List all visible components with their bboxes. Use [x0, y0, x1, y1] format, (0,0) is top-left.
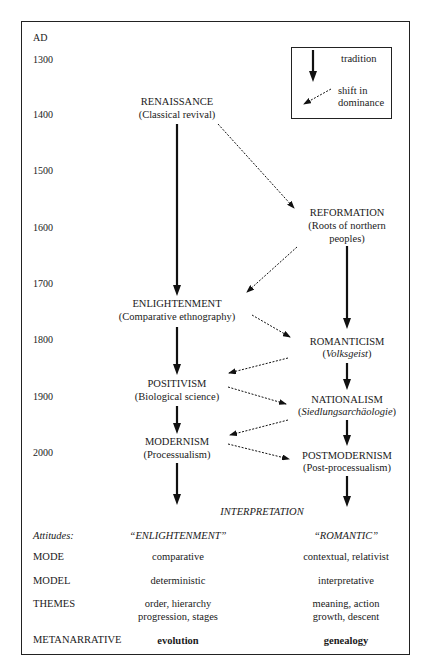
metanarrative-right: genealogy [324, 634, 368, 647]
node-reformation-subtitle-2: peoples) [329, 232, 365, 245]
node-romanticism-subtitle: (Volksgeist) [323, 347, 372, 360]
shift-arrow-romanticism-positivism [229, 358, 288, 373]
model-right: interpretative [318, 574, 374, 587]
row-label-model: MODEL [33, 574, 70, 587]
attitude-left: “ENLIGHTENMENT” [130, 529, 227, 542]
model-left: deterministic [151, 574, 206, 587]
legend-shift-label-2: dominance [338, 96, 384, 109]
mode-left: comparative [152, 550, 204, 563]
row-label-metanarrative: METANARRATIVE [33, 633, 121, 646]
legend-tradition-label: tradition [341, 52, 377, 65]
node-modernism-title: MODERNISM [145, 435, 209, 448]
year-2000: 2000 [33, 446, 53, 459]
axis-label: AD [33, 31, 47, 44]
node-positivism-subtitle: (Biological science) [135, 390, 219, 403]
node-enlightenment-title: ENLIGHTENMENT [132, 297, 221, 310]
shift-arrow-reformation-enlightenment [247, 247, 297, 292]
tradition-arrow-renaissance-enlightenment [173, 124, 181, 296]
shift-arrow-modernism-postmodernism [228, 444, 289, 459]
year-1600: 1600 [33, 221, 53, 234]
node-renaissance-subtitle: (Classical revival) [139, 108, 216, 121]
node-reformation-subtitle-1: (Roots of northern [308, 219, 386, 232]
interpretation-heading: INTERPRETATION [220, 505, 303, 518]
year-1300: 1300 [33, 53, 53, 66]
row-label-themes: THEMES [33, 597, 75, 610]
tradition-arrow-nationalism-postmodernism [343, 420, 351, 446]
node-enlightenment-subtitle: (Comparative ethnography) [119, 310, 235, 323]
tradition-arrow-positivism-modernism [173, 406, 181, 434]
tradition-arrow-modernism-interpretation [173, 463, 181, 505]
node-modernism-subtitle: (Processualism) [143, 448, 210, 461]
shift-arrow-nationalism-modernism [230, 420, 288, 435]
node-postmodernism-subtitle: (Post-processualism) [303, 461, 391, 474]
shift-arrow-enlightenment-romanticism [252, 315, 290, 337]
metanarrative-left: evolution [157, 634, 198, 647]
year-1800: 1800 [33, 333, 53, 346]
year-1500: 1500 [33, 164, 53, 177]
node-nationalism-subtitle: (Siedlungsarchäologie) [298, 405, 396, 418]
tradition-arrow-romanticism-nationalism [343, 363, 351, 390]
row-label-mode: MODE [33, 550, 64, 563]
node-reformation-title: REFORMATION [310, 206, 385, 219]
row-label-attitudes: Attitudes: [33, 529, 74, 542]
tradition-arrow-enlightenment-positivism [173, 327, 181, 375]
tradition-arrow-postmodernism-interpretation [343, 476, 351, 507]
themes-right-1: meaning, action [312, 597, 379, 610]
themes-right-2: growth, descent [313, 610, 379, 623]
shift-arrow-positivism-nationalism [228, 387, 286, 404]
themes-left-2: progression, stages [138, 610, 218, 623]
node-renaissance-title: RENAISSANCE [141, 95, 213, 108]
mode-right: contextual, relativist [303, 550, 389, 563]
year-1700: 1700 [33, 277, 53, 290]
attitude-right: “ROMANTIC” [314, 529, 378, 542]
year-1400: 1400 [33, 108, 53, 121]
year-1900: 1900 [33, 390, 53, 403]
tradition-arrow-reformation-romanticism [343, 246, 351, 329]
themes-left-1: order, hierarchy [145, 597, 212, 610]
shift-arrow-renaissance-reformation [218, 124, 294, 208]
node-positivism-title: POSITIVISM [148, 377, 207, 390]
